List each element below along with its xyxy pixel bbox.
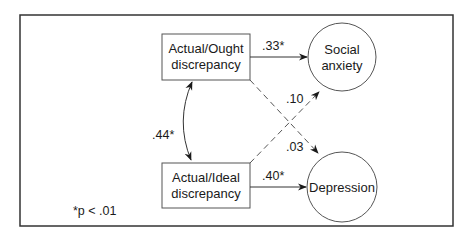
- node-actual-ought: Actual/Ought discrepancy: [162, 34, 250, 80]
- path-diagram: Actual/Ought discrepancy Actual/Ideal di…: [0, 0, 475, 238]
- actual-ought-label-line2: discrepancy: [171, 57, 241, 72]
- coef-ideal-to-depression: .40*: [262, 169, 284, 183]
- depression-label: Depression: [309, 180, 375, 195]
- node-depression: Depression: [307, 152, 377, 222]
- actual-ideal-label-line1: Actual/Ideal: [172, 170, 240, 185]
- path-ideal-to-social-anxiety: [250, 92, 319, 163]
- social-anxiety-label-line1: Social: [324, 42, 360, 57]
- coef-ought-to-depression: .03: [286, 140, 303, 154]
- actual-ideal-label-line2: discrepancy: [171, 186, 241, 201]
- social-anxiety-circle: [308, 23, 376, 91]
- node-actual-ideal: Actual/Ideal discrepancy: [162, 163, 250, 208]
- node-social-anxiety: Social anxiety: [308, 23, 376, 91]
- social-anxiety-label-line2: anxiety: [321, 58, 363, 73]
- coef-ideal-to-social-anxiety: .10: [286, 92, 303, 106]
- significance-footnote: *p < .01: [73, 204, 116, 218]
- coef-correlation: .44*: [152, 128, 174, 142]
- path-ought-to-depression: [250, 80, 318, 153]
- coef-ought-to-social-anxiety: .33*: [262, 39, 284, 53]
- correlation-double-arrow: [183, 82, 192, 160]
- actual-ought-label-line1: Actual/Ought: [168, 41, 244, 56]
